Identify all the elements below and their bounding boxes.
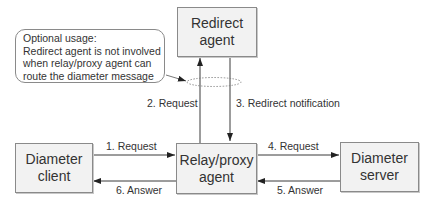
note-line-1: Optional usage: [23, 32, 164, 45]
diameter-client-label-line2: client [26, 168, 83, 185]
diameter-server-box: Diameter server [340, 142, 419, 192]
optional-path-ellipse [187, 78, 241, 87]
edge-label-6-answer: 6. Answer [116, 184, 162, 196]
optional-usage-note: Optional usage: Redirect agent is not in… [15, 29, 165, 83]
note-line-4: route the diameter message [23, 70, 164, 83]
diameter-server-label-line2: server [351, 167, 408, 184]
diameter-server-label-line1: Diameter [351, 150, 408, 167]
edge-label-5-answer: 5. Answer [277, 184, 323, 196]
redirect-agent-label-line2: agent [191, 32, 243, 49]
note-line-3: when relay/proxy agent can [23, 57, 164, 70]
diameter-client-box: Diameter client [15, 143, 93, 193]
redirect-agent-box: Redirect agent [177, 7, 257, 57]
diameter-client-label-line1: Diameter [26, 151, 83, 168]
relay-proxy-agent-box: Relay/proxy agent [176, 143, 257, 194]
note-pointer [166, 75, 186, 81]
edge-label-1-request: 1. Request [106, 140, 157, 152]
edge-label-2-request: 2. Request [147, 97, 198, 109]
note-line-2: Redirect agent is not involved [23, 45, 164, 58]
relay-proxy-label-line1: Relay/proxy [180, 152, 254, 169]
redirect-agent-label-line1: Redirect [191, 15, 243, 32]
relay-proxy-label-line2: agent [180, 169, 254, 186]
edge-label-4-request: 4. Request [268, 140, 319, 152]
edge-label-3-redirect-notification: 3. Redirect notification [236, 97, 340, 109]
